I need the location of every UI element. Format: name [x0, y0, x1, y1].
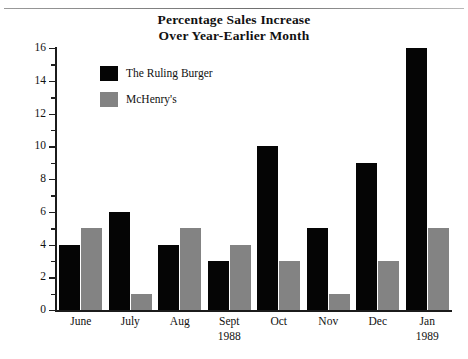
x-axis-line — [55, 310, 452, 312]
x-axis-label-dec: Dec — [353, 314, 403, 329]
y-axis-label-0: 0 — [16, 304, 46, 316]
y-axis-label-16: 16 — [16, 42, 46, 54]
bar-sept-series-1 — [230, 245, 251, 311]
bar-group-jan — [403, 48, 453, 310]
y-axis-label-8: 8 — [16, 173, 46, 185]
chart-figure: Percentage Sales Increase Over Year-Earl… — [0, 0, 468, 359]
chart-legend: The Ruling Burger McHenry's — [100, 64, 270, 116]
legend-item-the-ruling-burger: The Ruling Burger — [100, 64, 270, 86]
y-axis-label-2: 2 — [16, 271, 46, 283]
bar-jan-series-1 — [428, 228, 449, 310]
x-axis-label-month: Oct — [270, 315, 287, 327]
bar-aug-series-1 — [180, 228, 201, 310]
bar-oct-series-0 — [257, 146, 278, 310]
x-axis-label-aug: Aug — [155, 314, 205, 329]
bar-sept-series-0 — [208, 261, 229, 310]
x-axis-label-july: July — [106, 314, 156, 329]
chart-title-line-1: Percentage Sales Increase — [158, 12, 311, 27]
bar-dec-series-0 — [356, 163, 377, 310]
y-axis-label-10: 10 — [16, 140, 46, 152]
legend-label-series-0: The Ruling Burger — [126, 67, 213, 80]
x-axis-label-month: June — [70, 315, 91, 327]
bar-july-series-1 — [131, 294, 152, 310]
x-axis-label-sept: Sept1988 — [205, 314, 255, 344]
x-axis-label-jan: Jan1989 — [403, 314, 453, 344]
x-axis-label-month: Aug — [170, 315, 190, 327]
y-axis-major-tick-0 — [49, 310, 57, 311]
legend-swatch-icon-series-0 — [100, 66, 118, 81]
bar-jan-series-0 — [406, 48, 427, 310]
y-axis-label-6: 6 — [16, 206, 46, 218]
bar-june-series-1 — [81, 228, 102, 310]
x-axis-label-year: 1989 — [403, 329, 453, 344]
y-axis-label-12: 12 — [16, 108, 46, 120]
x-axis-label-june: June — [56, 314, 106, 329]
legend-label-series-1: McHenry's — [126, 93, 177, 106]
y-axis-label-14: 14 — [16, 75, 46, 87]
bar-july-series-0 — [109, 212, 130, 310]
x-axis-label-month: Jan — [420, 315, 435, 327]
bar-group-dec — [353, 48, 403, 310]
top-divider-rule — [4, 8, 464, 9]
bar-group-june — [56, 48, 106, 310]
x-axis-label-month: Sept — [219, 315, 239, 327]
x-axis-label-oct: Oct — [254, 314, 304, 329]
bar-june-series-0 — [59, 245, 80, 311]
bar-nov-series-1 — [329, 294, 350, 310]
x-axis-label-nov: Nov — [304, 314, 354, 329]
y-axis-label-4: 4 — [16, 239, 46, 251]
bar-nov-series-0 — [307, 228, 328, 310]
bar-aug-series-0 — [158, 245, 179, 311]
x-axis-label-year: 1988 — [205, 329, 255, 344]
chart-title: Percentage Sales Increase Over Year-Earl… — [0, 12, 468, 44]
x-axis-tick-labels: JuneJulyAugSept1988OctNovDecJan1989 — [56, 314, 452, 358]
x-axis-label-month: July — [121, 315, 140, 327]
x-axis-label-month: Dec — [368, 315, 387, 327]
legend-swatch-icon-series-1 — [100, 92, 118, 107]
bar-group-nov — [304, 48, 354, 310]
bar-oct-series-1 — [279, 261, 300, 310]
x-axis-label-month: Nov — [318, 315, 338, 327]
legend-item-mchenrys: McHenry's — [100, 90, 270, 112]
bar-dec-series-1 — [378, 261, 399, 310]
chart-title-line-2: Over Year-Earlier Month — [0, 28, 468, 44]
